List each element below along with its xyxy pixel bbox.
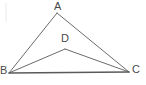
- vertex-label-d: D: [61, 33, 69, 44]
- vertex-label-c: C: [132, 64, 140, 75]
- segment-DB: [9, 49, 65, 73]
- vertex-label-a: A: [54, 1, 61, 12]
- segment-DC: [65, 49, 129, 72]
- segment-BC: [9, 72, 129, 73]
- segment-AB: [9, 13, 57, 73]
- geometry-diagram: A D B C: [0, 0, 146, 85]
- vertex-label-b: B: [0, 65, 7, 76]
- figure-svg: [0, 0, 146, 85]
